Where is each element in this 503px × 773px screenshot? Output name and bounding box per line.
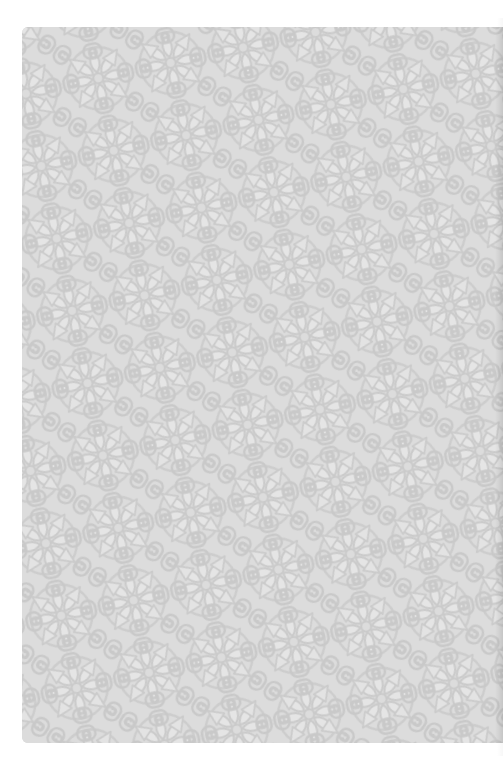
- endpaper-pattern: [22, 27, 503, 743]
- gutter-shade: [495, 27, 503, 743]
- patterned-endpaper: [22, 27, 503, 743]
- book-page: [0, 0, 503, 773]
